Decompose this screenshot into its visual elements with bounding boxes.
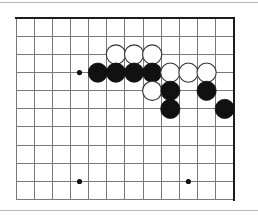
star-point (77, 179, 82, 184)
white-stone[interactable] (197, 63, 216, 82)
white-stone[interactable] (161, 63, 180, 82)
white-stone[interactable] (143, 45, 162, 64)
black-stone[interactable] (125, 63, 144, 82)
black-stone[interactable] (143, 63, 162, 82)
white-stone[interactable] (125, 45, 144, 64)
white-stone[interactable] (143, 81, 162, 100)
board-grid-lines (16, 18, 234, 200)
go-board-canvas[interactable] (0, 0, 258, 215)
black-stone[interactable] (215, 99, 234, 118)
black-stone[interactable] (161, 99, 180, 118)
star-point (186, 179, 191, 184)
black-stone[interactable] (197, 81, 216, 100)
star-point (77, 70, 82, 75)
white-stone[interactable] (179, 63, 198, 82)
black-stone[interactable] (161, 81, 180, 100)
go-diagram-figure (0, 0, 258, 215)
go-board-container[interactable] (0, 0, 258, 215)
black-stone[interactable] (88, 63, 107, 82)
black-stone[interactable] (106, 63, 125, 82)
white-stone[interactable] (106, 45, 125, 64)
